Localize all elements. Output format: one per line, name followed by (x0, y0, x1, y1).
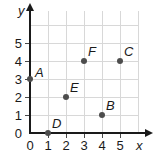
data-point-c (117, 58, 123, 64)
coordinate-plane-figure: y x 012345012345 ABCDEF (0, 0, 160, 158)
x-axis-tick-label: 2 (59, 139, 73, 152)
y-axis-tick (25, 43, 29, 44)
y-axis-line (29, 10, 31, 134)
gridline-horizontal (30, 25, 138, 26)
data-point-d (45, 130, 51, 136)
x-axis-tick-label: 5 (113, 139, 127, 152)
gridline-vertical (84, 11, 85, 133)
data-point-f (81, 58, 87, 64)
y-axis-tick-label: 1 (8, 109, 22, 122)
y-axis-label: y (18, 4, 25, 17)
plot-grid-area (30, 11, 138, 133)
gridline-vertical (120, 11, 121, 133)
data-point-label-d: D (52, 117, 61, 130)
gridline-horizontal (30, 43, 138, 44)
y-axis-tick-label: 5 (8, 37, 22, 50)
data-point-label-f: F (88, 45, 96, 58)
x-axis-arrow-icon (145, 129, 153, 137)
data-point-label-b: B (106, 99, 115, 112)
gridline-vertical (138, 11, 139, 133)
data-point-a (27, 76, 33, 82)
y-axis-tick (25, 61, 29, 62)
data-point-label-c: C (124, 45, 133, 58)
y-axis-tick-label: 2 (8, 91, 22, 104)
x-axis-label: x (136, 139, 143, 152)
data-point-e (63, 94, 69, 100)
gridline-vertical (66, 11, 67, 133)
y-axis-arrow-icon (26, 3, 34, 11)
data-point-b (99, 112, 105, 118)
y-axis-tick-label: 0 (8, 127, 22, 140)
x-axis-tick-label: 3 (77, 139, 91, 152)
y-axis-tick (25, 97, 29, 98)
data-point-label-a: A (35, 66, 44, 79)
gridline-horizontal (30, 79, 138, 80)
y-axis-tick (25, 115, 29, 116)
y-axis-tick-label: 4 (8, 55, 22, 68)
data-point-label-e: E (70, 81, 79, 94)
x-axis-tick-label: 0 (23, 139, 37, 152)
y-axis-tick-label: 3 (8, 73, 22, 86)
x-axis-tick-label: 1 (41, 139, 55, 152)
x-axis-tick-label: 4 (95, 139, 109, 152)
